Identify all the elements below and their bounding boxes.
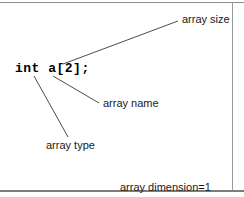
array-size-leader-line bbox=[63, 21, 178, 64]
array-type-leader-line bbox=[34, 76, 68, 137]
code-declaration: int a[2]; bbox=[15, 61, 90, 76]
label-array-dimension-line1: array dimension=1 bbox=[120, 181, 212, 194]
array-name-leader-line bbox=[53, 76, 99, 103]
label-array-type: array type bbox=[46, 139, 95, 152]
label-array-dimension-note: array dimension=1 (1 pair of brackets) bbox=[120, 155, 212, 197]
label-array-size: array size bbox=[182, 13, 230, 26]
label-array-name: array name bbox=[103, 97, 159, 110]
annotated-code-figure: int a[2]; array size array name array ty… bbox=[0, 0, 244, 197]
